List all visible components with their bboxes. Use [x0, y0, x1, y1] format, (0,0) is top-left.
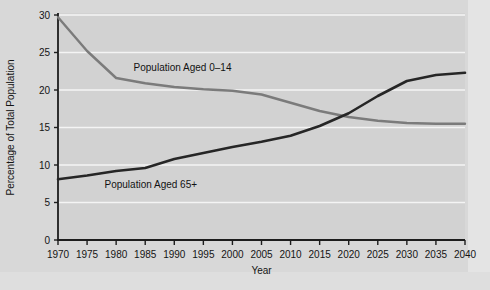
x-axis-tick-label: 2005	[250, 249, 273, 260]
x-axis-tick-label: 2000	[221, 249, 244, 260]
y-axis-tick-label: 0	[44, 235, 50, 246]
x-axis-tick-label: 2025	[367, 249, 390, 260]
chart-figure: 0510152025301970197519801985199019952000…	[0, 0, 490, 290]
x-axis-tick-label: 1975	[76, 249, 99, 260]
x-axis-tick-label: 1980	[105, 249, 128, 260]
series-annotation-1: Population Aged 0–14	[134, 62, 232, 73]
plot-area-background	[58, 13, 465, 240]
x-axis-tick-label: 1970	[47, 249, 70, 260]
y-axis-tick-label: 10	[39, 160, 51, 171]
y-axis-title: Percentage of Total Population	[5, 59, 16, 195]
line-chart: 0510152025301970197519801985199019952000…	[0, 0, 490, 290]
x-axis-tick-label: 2040	[454, 249, 477, 260]
x-axis-tick-label: 2010	[279, 249, 302, 260]
y-axis-tick-label: 30	[39, 10, 51, 21]
x-axis-tick-label: 2035	[425, 249, 448, 260]
x-axis-title: Year	[251, 265, 272, 276]
x-axis-tick-label: 1985	[134, 249, 157, 260]
x-axis-tick-label: 2015	[309, 249, 332, 260]
series-annotation-2: Population Aged 65+	[105, 179, 198, 190]
y-axis-tick-label: 15	[39, 122, 51, 133]
y-axis-tick-label: 20	[39, 85, 51, 96]
x-axis-tick-label: 2030	[396, 249, 419, 260]
x-axis-tick-label: 2020	[338, 249, 361, 260]
y-axis-tick-label: 25	[39, 47, 51, 58]
x-axis-tick-label: 1990	[163, 249, 186, 260]
x-axis-tick-label: 1995	[192, 249, 215, 260]
y-axis-tick-label: 5	[44, 197, 50, 208]
